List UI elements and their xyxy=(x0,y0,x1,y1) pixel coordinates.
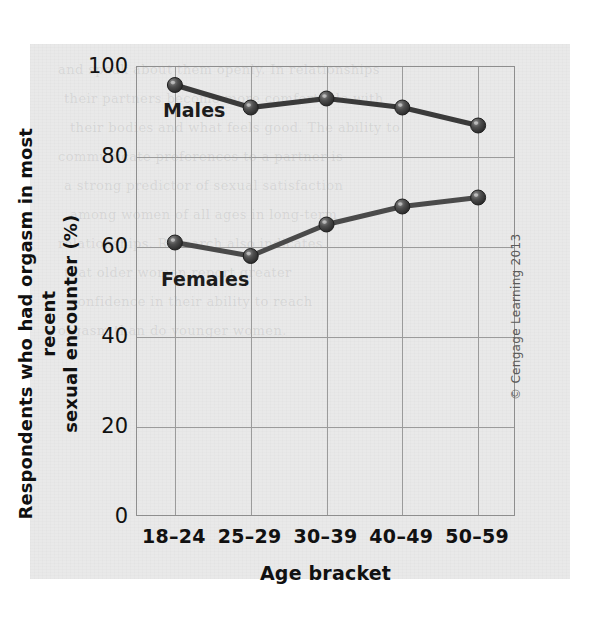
series-label-females: Females xyxy=(161,268,249,290)
x-axis-tick-label: 18–24 xyxy=(142,525,206,547)
marker-highlight xyxy=(398,202,403,206)
marker-highlight xyxy=(322,94,327,98)
copyright-notice: © Cengage Learning 2013 xyxy=(509,210,523,400)
data-point-marker[interactable] xyxy=(243,100,258,115)
marker-highlight xyxy=(474,193,479,197)
data-point-marker[interactable] xyxy=(243,249,258,264)
x-axis-title: Age bracket xyxy=(136,562,515,584)
marker-highlight xyxy=(398,103,403,107)
figure-page: and speak about them openly. In relation… xyxy=(0,0,607,620)
x-axis-tick-labels: 18–2425–2930–3940–4950–59 xyxy=(0,525,607,551)
x-axis-tick-label: 30–39 xyxy=(294,525,358,547)
x-axis-tick-label: 25–29 xyxy=(218,525,282,547)
y-axis-tick-label: 100 xyxy=(88,54,128,78)
marker-highlight xyxy=(171,238,176,242)
data-point-marker[interactable] xyxy=(167,235,182,250)
marker-highlight xyxy=(322,220,327,224)
x-axis-tick-label: 40–49 xyxy=(369,525,433,547)
marker-highlight xyxy=(246,252,251,256)
y-axis-tick-labels: 020406080100 xyxy=(86,66,128,516)
data-point-marker[interactable] xyxy=(167,78,182,93)
data-point-marker[interactable] xyxy=(395,199,410,214)
y-axis-tick-label: 20 xyxy=(101,414,128,438)
y-axis-tick-label: 60 xyxy=(101,234,128,258)
x-axis-tick-label: 50–59 xyxy=(445,525,509,547)
y-axis-title-line: sexual encounter (%) xyxy=(60,114,83,534)
data-point-marker[interactable] xyxy=(395,100,410,115)
plot-area: Males Females xyxy=(136,66,515,516)
data-point-marker[interactable] xyxy=(319,91,334,106)
marker-highlight xyxy=(171,81,176,85)
series-label-males: Males xyxy=(163,99,225,121)
chart-series-layer xyxy=(137,67,516,517)
y-axis-tick-label: 80 xyxy=(101,144,128,168)
y-axis-tick-label: 40 xyxy=(101,324,128,348)
data-point-marker[interactable] xyxy=(471,190,486,205)
data-point-marker[interactable] xyxy=(471,118,486,133)
marker-highlight xyxy=(246,103,251,107)
data-point-marker[interactable] xyxy=(319,217,334,232)
marker-highlight xyxy=(474,121,479,125)
y-axis-title-line: Respondents who had orgasm in most recen… xyxy=(15,114,60,534)
y-axis-title: Respondents who had orgasm in most recen… xyxy=(15,114,83,534)
